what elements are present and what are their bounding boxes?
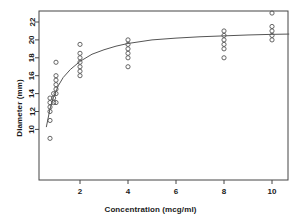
data-point [222, 38, 226, 42]
data-point [126, 51, 130, 55]
data-point [222, 56, 226, 60]
x-tick-label: 4 [126, 187, 131, 196]
fit-curve [46, 34, 288, 127]
data-point [54, 83, 58, 87]
x-tick-label: 10 [268, 187, 277, 196]
data-point [78, 51, 82, 55]
data-point [54, 74, 58, 78]
data-point [48, 118, 52, 122]
plot-frame [39, 11, 288, 180]
y-tick-label: 18 [28, 53, 37, 62]
x-tick-label: 8 [222, 187, 227, 196]
data-point [222, 47, 226, 51]
x-tick-label: 2 [78, 187, 83, 196]
chart-figure: 24681010121416182022 Concentration (mcg/… [0, 0, 301, 216]
data-point [48, 136, 52, 140]
scatter-plot: 24681010121416182022 [0, 0, 301, 216]
data-point [78, 69, 82, 73]
data-point [54, 78, 58, 82]
y-tick-label: 22 [28, 17, 37, 26]
data-point [78, 56, 82, 60]
data-point [78, 42, 82, 46]
data-point [222, 29, 226, 33]
data-point [126, 65, 130, 69]
data-point [54, 60, 58, 64]
x-axis-title: Concentration (mcg/ml) [0, 205, 301, 214]
data-point [270, 29, 274, 33]
data-point [126, 42, 130, 46]
data-point [126, 56, 130, 60]
data-point [270, 24, 274, 28]
y-tick-label: 10 [28, 124, 37, 133]
data-point [78, 74, 82, 78]
data-point [270, 38, 274, 42]
data-point [126, 47, 130, 51]
y-tick-label: 20 [28, 35, 37, 44]
data-point [78, 65, 82, 69]
y-tick-label: 16 [28, 71, 37, 80]
y-tick-label: 14 [28, 89, 37, 98]
data-point [126, 38, 130, 42]
data-point [270, 11, 274, 15]
y-tick-label: 12 [28, 107, 37, 116]
data-point [222, 42, 226, 46]
y-axis-title: Diameter (mm) [15, 60, 25, 156]
x-tick-label: 6 [174, 187, 179, 196]
